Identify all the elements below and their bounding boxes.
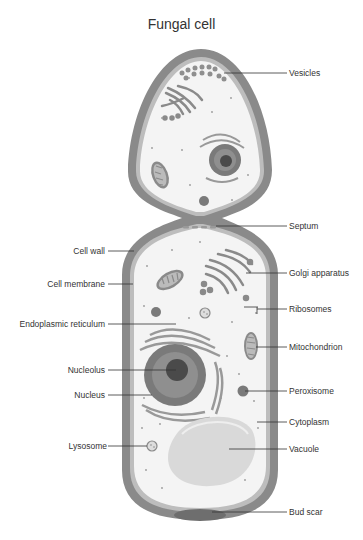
- label-peroxisome: Peroxisome: [289, 386, 334, 396]
- label-nucleus: Nucleus: [74, 390, 105, 400]
- label-septum: Septum: [289, 221, 318, 231]
- peroxisome-top: [199, 196, 209, 206]
- bud-scar: [174, 509, 226, 521]
- nucleus: [144, 344, 206, 406]
- label-vacuole: Vacuole: [289, 444, 319, 454]
- label-ribosomes: Ribosomes: [289, 304, 332, 314]
- label-golgi-apparatus: Golgi apparatus: [289, 268, 349, 278]
- label-vesicles: Vesicles: [289, 68, 320, 78]
- ribosome-cluster: [200, 308, 210, 318]
- peroxisome-small: [151, 307, 161, 317]
- label-lysosome: Lysosome: [69, 441, 107, 451]
- lysosome: [147, 441, 157, 451]
- label-bud-scar: Bud scar: [289, 507, 323, 517]
- mitochondrion: [244, 332, 258, 360]
- label-cytoplasm: Cytoplasm: [289, 417, 329, 427]
- label-nucleolus: Nucleolus: [68, 365, 105, 375]
- label-mitochondrion: Mitochondrion: [289, 342, 342, 352]
- label-endoplasmic-reticulum: Endoplasmic reticulum: [19, 319, 105, 329]
- label-cell-membrane: Cell membrane: [47, 279, 105, 289]
- label-cell-wall: Cell wall: [73, 246, 105, 256]
